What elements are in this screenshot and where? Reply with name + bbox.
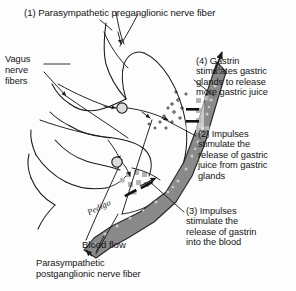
label-postganglionic-nerve-fiber: Parasympathetic postganglionic nerve fib… <box>36 258 141 280</box>
gastric-gland-cell-icon <box>120 170 156 204</box>
label-impulses-release-gastric-juice: (2) Impulses stimulate the release of ga… <box>198 129 268 181</box>
label-gastrin-stimulates-gastric-glands: (4) Gastrin stimulates gastric glands to… <box>196 56 268 98</box>
label-impulses-release-gastrin: (3) Impulses stimulate the release of ga… <box>186 206 256 248</box>
gastric-juice-droplets-icon <box>148 91 187 129</box>
label-vagus-nerve-fibers: Vagus nerve fibers <box>5 54 30 88</box>
label-blood-flow: Blood flow <box>82 240 126 250</box>
title-label-preganglionic-nerve-fiber: (1) Parasympathetic preganglionic nerve … <box>24 8 215 18</box>
ganglion-circle-icon <box>112 103 127 167</box>
diagram-canvas: (1) Parasympathetic preganglionic nerve … <box>0 0 296 291</box>
